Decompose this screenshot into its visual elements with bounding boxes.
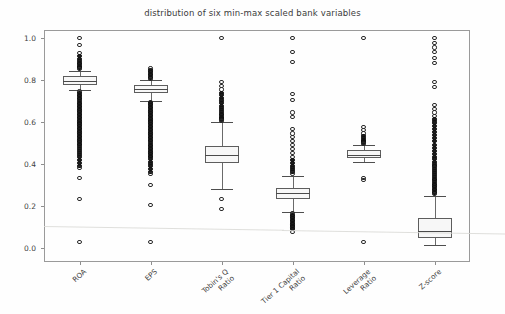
median-line — [418, 231, 452, 232]
whisker-lower — [435, 238, 436, 246]
boxplot-z-score[interactable] — [0, 0, 505, 314]
cap-upper — [424, 196, 446, 197]
outlier-point-high — [432, 41, 436, 45]
cap-lower — [424, 245, 446, 246]
outlier-point-high — [432, 45, 436, 49]
outlier-point-high — [432, 61, 436, 65]
outlier-point-high — [432, 85, 436, 89]
boxplot-figure: distribution of six min-max scaled bank … — [0, 0, 505, 314]
whisker-upper — [435, 196, 436, 218]
outlier-point-high — [432, 80, 436, 84]
outlier-point-high — [432, 192, 436, 196]
outlier-point-high — [432, 56, 436, 60]
box-iqr — [418, 218, 452, 238]
outlier-point-high — [432, 36, 436, 40]
outlier-point-high — [432, 50, 436, 54]
